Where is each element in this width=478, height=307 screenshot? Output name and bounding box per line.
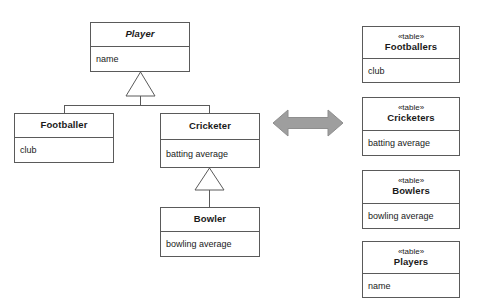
class-name-footballer: Footballer <box>15 114 113 138</box>
class-box-bowler[interactable]: Bowler bowling average <box>160 207 260 257</box>
table-name-footballers: Footballers <box>385 41 437 52</box>
class-box-player[interactable]: Player name <box>90 22 190 72</box>
table-name-bowlers: Bowlers <box>392 185 430 196</box>
table-box-cricketers[interactable]: «table» Cricketers batting average <box>362 97 460 156</box>
table-name-players: Players <box>394 256 429 267</box>
table-column-footballers-club: club <box>363 59 459 82</box>
class-attribute-footballer-club: club <box>15 138 113 162</box>
table-stereotype-footballers: «table» <box>398 32 424 41</box>
bidirectional-mapping-arrow <box>273 110 343 136</box>
table-stereotype-cricketers: «table» <box>398 103 424 112</box>
class-name-player: Player <box>91 23 189 47</box>
diagram-canvas: Player name Footballer club Cricketer ba… <box>0 0 478 307</box>
class-name-bowler: Bowler <box>161 208 259 232</box>
table-header-cricketers: «table» Cricketers <box>363 98 459 131</box>
class-attribute-player-name: name <box>91 47 189 71</box>
class-attribute-cricketer-batting-average: batting average <box>161 140 259 167</box>
table-header-bowlers: «table» Bowlers <box>363 171 459 204</box>
table-box-bowlers[interactable]: «table» Bowlers bowling average <box>362 170 460 229</box>
table-header-players: «table» Players <box>363 242 459 274</box>
class-box-cricketer[interactable]: Cricketer batting average <box>160 113 260 168</box>
table-name-cricketers: Cricketers <box>387 112 434 123</box>
table-box-footballers[interactable]: «table» Footballers club <box>362 26 460 83</box>
table-stereotype-players: «table» <box>398 247 424 256</box>
class-attribute-bowler-bowling-average: bowling average <box>161 232 259 256</box>
table-header-footballers: «table» Footballers <box>363 27 459 59</box>
table-stereotype-bowlers: «table» <box>398 176 424 185</box>
table-box-players[interactable]: «table» Players name <box>362 241 460 298</box>
class-name-cricketer: Cricketer <box>161 114 259 140</box>
table-column-cricketers-batting-average: batting average <box>363 131 459 155</box>
table-column-bowlers-bowling-average: bowling average <box>363 204 459 228</box>
class-box-footballer[interactable]: Footballer club <box>14 113 114 163</box>
table-column-players-name: name <box>363 274 459 297</box>
